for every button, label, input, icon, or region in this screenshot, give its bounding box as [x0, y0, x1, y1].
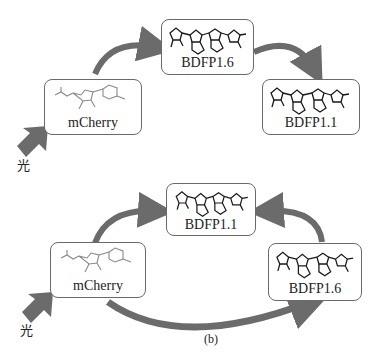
arrow-mcherry-to-bdfp11 [95, 211, 156, 243]
bdfp16-box-a: BDFP1.6 [161, 19, 254, 75]
box-label: BDFP1.1 [167, 217, 255, 233]
bdfp-structure-icon [273, 247, 359, 281]
arrow-mcherry-to-bdfp16-bottom [108, 302, 310, 327]
figure-caption: (b) [204, 332, 218, 347]
box-label: BDFP1.6 [269, 281, 361, 297]
mcherry-structure-icon [49, 83, 139, 117]
bdfp-structure-icon [171, 187, 253, 219]
arrow-bdfp16-to-bdfp11 [254, 46, 314, 69]
box-label: BDFP1.1 [263, 115, 359, 131]
arrow-bdfp16-to-bdfp11 [266, 211, 322, 242]
arrow-mcherry-to-bdfp16 [95, 45, 156, 74]
light-label-b: 光 [20, 320, 33, 339]
bdfp-structure-icon [166, 23, 250, 57]
box-label: mCherry [45, 115, 141, 131]
light-arrow-icon-a [17, 126, 48, 157]
light-label-a: 光 [17, 155, 30, 174]
box-label: mCherry [51, 278, 145, 294]
bdfp-structure-icon [267, 83, 355, 117]
bdfp11-box-b: BDFP1.1 [166, 183, 256, 236]
mcherry-structure-icon [55, 246, 145, 280]
mcherry-box-a: mCherry [44, 79, 142, 135]
light-arrow-icon-b [22, 292, 53, 323]
box-label: BDFP1.6 [162, 55, 253, 71]
mcherry-box-b: mCherry [50, 242, 146, 298]
bdfp16-box-b: BDFP1.6 [268, 243, 362, 301]
bdfp11-box-a: BDFP1.1 [262, 79, 360, 135]
